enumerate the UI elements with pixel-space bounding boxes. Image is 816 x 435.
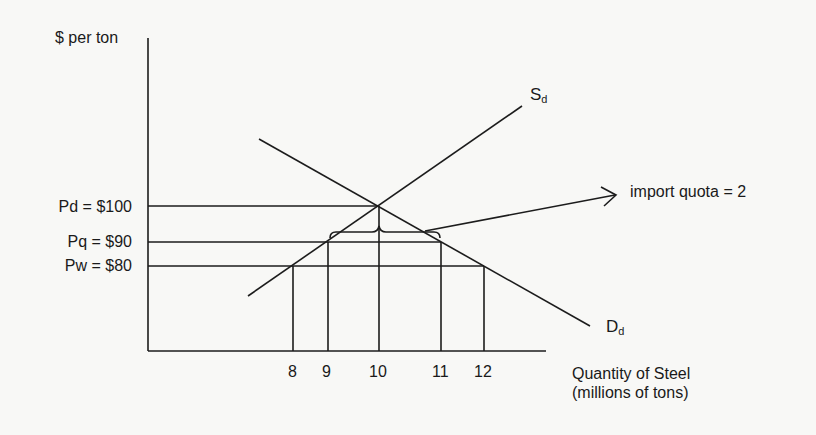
supply-label: Sd (530, 86, 547, 105)
quota-arrow (425, 195, 615, 231)
x-axis-label-line2: (millions of tons) (572, 385, 688, 401)
pq-label: Pq = $90 (20, 234, 132, 250)
pw-label: Pw = $80 (20, 258, 132, 274)
pd-label: Pd = $100 (20, 199, 132, 215)
y-axis-label: $ per ton (55, 30, 118, 46)
x-tick-9: 9 (322, 364, 331, 380)
x-tick-8: 8 (288, 364, 297, 380)
import-quota-annotation: import quota = 2 (630, 184, 746, 200)
supply-curve (248, 106, 522, 296)
chart-plot (0, 0, 816, 435)
x-tick-12: 12 (474, 364, 492, 380)
x-axis-label-line1: Quantity of Steel (572, 366, 690, 382)
chart-canvas: $ per ton Pd = $100 Pq = $90 Pw = $80 8 … (0, 0, 816, 435)
demand-label: Dd (606, 318, 624, 337)
x-tick-10: 10 (369, 364, 387, 380)
x-tick-11: 11 (432, 364, 449, 380)
